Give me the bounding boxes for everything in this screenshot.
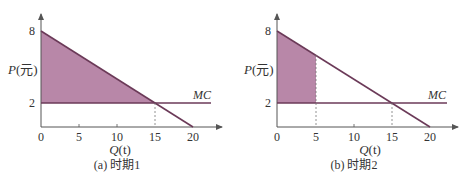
- panel-caption: (a) 时期1: [94, 158, 140, 172]
- shaded-surplus-area: [277, 31, 316, 103]
- y-tick-8: 8: [29, 24, 35, 38]
- x-tick-0: 0: [274, 130, 280, 144]
- x-tick-15: 15: [386, 130, 398, 144]
- y-axis-label: P(元): [243, 62, 274, 77]
- x-tick-15: 15: [149, 130, 161, 144]
- y-axis-label: P(元): [7, 62, 38, 77]
- mc-label: MC: [192, 88, 212, 102]
- x-tick-5: 5: [76, 130, 82, 144]
- x-tick-0: 0: [38, 130, 44, 144]
- panel-b: 8 2 P(元) 0 5 10 15 20 Q(t) MC (b) 时期2: [243, 14, 458, 172]
- x-axis-label: Q(t): [109, 142, 131, 157]
- mc-label: MC: [427, 88, 447, 102]
- x-axis-label: Q(t): [359, 142, 381, 157]
- y-tick-2: 2: [29, 96, 35, 110]
- x-tick-20: 20: [187, 130, 199, 144]
- figure: 8 2 P(元) 0 5 10 15 20 Q(t) MC (a) 时期1 8 …: [0, 0, 461, 178]
- panel-caption: (b) 时期2: [331, 158, 378, 172]
- panel-a: 8 2 P(元) 0 5 10 15 20 Q(t) MC (a) 时期1: [7, 14, 222, 172]
- y-tick-8: 8: [265, 24, 271, 38]
- x-tick-5: 5: [313, 130, 319, 144]
- x-tick-20: 20: [424, 130, 436, 144]
- y-tick-2: 2: [265, 96, 271, 110]
